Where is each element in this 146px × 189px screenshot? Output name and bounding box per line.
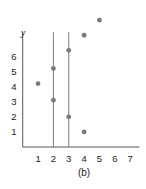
data-point [66,48,71,53]
y-tick-label: 6 [11,51,16,62]
x-tick-label: 2 [51,153,56,164]
y-tick-label: 2 [11,111,16,122]
y-tick-label: 3 [11,96,16,107]
y-tick-label: 4 [11,81,16,92]
x-tick-label: 3 [66,153,71,164]
vertical-lines [53,32,68,147]
x-tick-label: 1 [35,153,40,164]
x-tick-label: 5 [97,153,102,164]
data-point [51,66,56,71]
x-tick-label: 6 [112,153,117,164]
y-axis-label: y [20,27,26,38]
x-tick-label: 7 [128,153,133,164]
data-point [97,18,102,23]
y-tick-label: 1 [11,126,16,137]
chart-caption: (b) [78,167,90,178]
data-point [36,81,41,86]
x-tick-label: 4 [81,153,86,164]
data-point [51,98,56,103]
scatter-chart: 1234567 123456 y (b) [0,0,146,189]
x-tick-labels: 1234567 [35,153,132,164]
data-point [66,114,71,119]
data-point [82,130,87,135]
y-tick-label: 5 [11,66,16,77]
data-point [82,33,87,38]
y-tick-labels: 123456 [11,51,16,137]
axes [23,32,140,147]
